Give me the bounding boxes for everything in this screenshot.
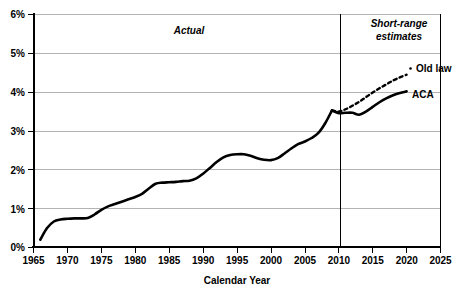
chart-container: 6% 5% 4% 3% 2% 1% 0% 1965 197 — [0, 0, 466, 292]
series-line-actual — [40, 110, 332, 239]
y-tick-label-5pct: 5% — [11, 48, 26, 59]
y-tick-label-0pct: 0% — [11, 242, 26, 253]
x-tick-label-2000: 2000 — [260, 255, 283, 266]
x-tick-label-1980: 1980 — [124, 255, 147, 266]
y-tick-marks — [28, 15, 33, 248]
x-tick-label-1985: 1985 — [158, 255, 181, 266]
x-tick-label-1970: 1970 — [56, 255, 79, 266]
y-tick-label-2pct: 2% — [11, 165, 26, 176]
x-tick-label-1995: 1995 — [226, 255, 249, 266]
series-label-old-law: Old law — [416, 63, 452, 74]
series-label-aca: ACA — [412, 89, 434, 100]
gridlines — [33, 15, 440, 209]
short-range-estimates-label: Short-range — [371, 18, 428, 29]
short-range-estimates-label-line2: estimates — [376, 31, 423, 42]
x-tick-label-1965: 1965 — [22, 255, 45, 266]
x-tick-label-1975: 1975 — [90, 255, 113, 266]
y-tick-label-1pct: 1% — [11, 204, 26, 215]
y-tick-label-4pct: 4% — [11, 87, 26, 98]
actual-region-label: Actual — [173, 25, 205, 36]
old-law-leader-dot — [409, 67, 412, 70]
y-tick-label-6pct: 6% — [11, 9, 26, 20]
x-tick-label-2015: 2015 — [362, 255, 385, 266]
x-axis-title: Calendar Year — [204, 275, 271, 286]
line-chart: 6% 5% 4% 3% 2% 1% 0% 1965 197 — [0, 0, 466, 292]
x-tick-label-2010: 2010 — [328, 255, 351, 266]
x-tick-label-2025: 2025 — [429, 255, 452, 266]
x-tick-label-1990: 1990 — [192, 255, 215, 266]
y-tick-label-3pct: 3% — [11, 126, 26, 137]
y-tick-labels: 6% 5% 4% 3% 2% 1% 0% — [11, 9, 26, 253]
x-tick-label-2020: 2020 — [396, 255, 419, 266]
x-tick-labels: 1965 1970 1975 1980 1985 1990 1995 2000 … — [22, 255, 452, 266]
x-tick-label-2005: 2005 — [294, 255, 317, 266]
